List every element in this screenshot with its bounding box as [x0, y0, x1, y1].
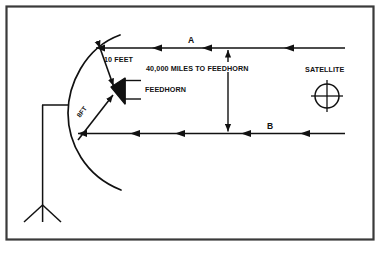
label-ray-b: B: [267, 121, 273, 131]
label-feedhorn: FEEDHORN: [145, 85, 186, 94]
label-ray-a: A: [188, 35, 194, 45]
label-satellite: SATELLITE: [305, 65, 345, 74]
label-distance-to-feedhorn: 40,000 MILES TO FEEDHORN: [146, 64, 249, 73]
label-ten-feet: 10 FEET: [104, 55, 134, 64]
diagram-canvas: 10 FEET 8FT FEEDHORN 40,000 MILES TO FEE…: [0, 0, 381, 254]
